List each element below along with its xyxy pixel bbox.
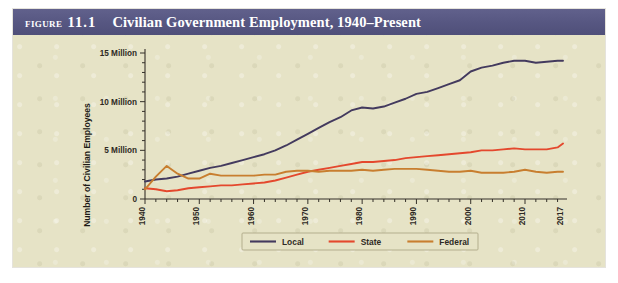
x-tick-label: 1950: [192, 207, 201, 226]
y-tick-label: 15 Million: [100, 49, 137, 58]
legend-label-local: Local: [282, 237, 304, 247]
y-axis: 05 Million10 Million15 Million: [100, 49, 145, 204]
figure-container: Figure11.1Civilian Government Employment…: [0, 0, 618, 283]
figure-number: 11.1: [67, 14, 96, 30]
chart-series: [145, 61, 563, 191]
figure-panel: Figure11.1Civilian Government Employment…: [13, 9, 605, 267]
x-tick-label: 1990: [409, 207, 418, 226]
x-tick-label: 1960: [247, 207, 256, 226]
series-line-state: [145, 144, 563, 192]
figure-title-text: Civilian Government Employment, 1940–Pre…: [112, 14, 421, 30]
x-tick-label: 2000: [464, 207, 473, 226]
legend-label-federal: Federal: [439, 237, 469, 247]
chart-legend: LocalStateFederal: [242, 233, 478, 250]
figure-caption: Figure11.1Civilian Government Employment…: [13, 13, 421, 31]
legend-label-state: State: [361, 237, 382, 247]
y-tick-label: 0: [132, 195, 137, 204]
y-axis-title: Number of Civilian Employees: [82, 103, 92, 227]
x-tick-label: 1940: [138, 207, 147, 226]
chart-plot-area: 05 Million10 Million15 Million 194019501…: [13, 35, 605, 267]
figure-label-word: Figure: [25, 16, 62, 30]
x-tick-label: 2010: [518, 207, 527, 226]
line-chart: 05 Million10 Million15 Million 194019501…: [13, 35, 605, 267]
x-tick-label: 1980: [355, 207, 364, 226]
y-tick-label: 10 Million: [100, 98, 137, 107]
x-tick-label: 1970: [301, 207, 310, 226]
x-tick-label: 2017: [556, 207, 565, 226]
x-axis: 194019501960197019801990200020102017: [138, 199, 567, 225]
figure-title-band: Figure11.1Civilian Government Employment…: [13, 9, 605, 35]
y-tick-label: 5 Million: [104, 146, 137, 155]
